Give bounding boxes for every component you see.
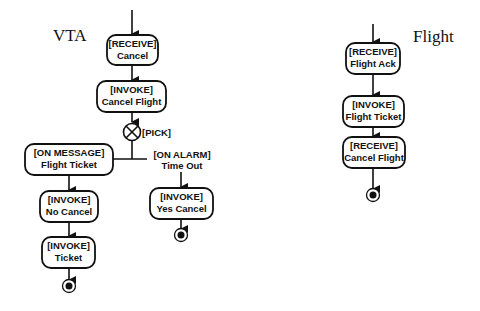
node-invoke-ticket: [INVOKE] Ticket [42,237,95,268]
pick-label: [PICK] [142,127,171,138]
node-kind: [INVOKE] [48,194,91,205]
vta-title: VTA [53,26,87,45]
node-invoke-flight-ticket: [INVOKE] Flight Ticket [343,96,404,127]
node-invoke-no-cancel: [INVOKE] No Cancel [40,191,98,222]
node-receive-cancel-flight: [RECEIVE] Cancel Flight [343,137,405,168]
node-name: Cancel Flight [102,96,162,107]
node-invoke-yes-cancel: [INVOKE] Yes Cancel [150,188,213,219]
end-node-icon [63,280,76,293]
node-receive-cancel: [RECEIVE] Cancel [107,35,158,65]
node-kind: [INVOKE] [160,191,203,202]
node-on-message: [ON MESSAGE] Flight Ticket [25,144,113,175]
node-on-alarm: [ON ALARM] Time Out [153,149,210,171]
node-name: Cancel Flight [344,152,404,163]
node-receive-flight-ack: [RECEIVE] Flight Ack [346,43,400,74]
node-invoke-cancel-flight: [INVOKE] Cancel Flight [97,81,166,112]
node-kind: [RECEIVE] [349,46,397,57]
node-kind: [RECEIVE] [350,140,398,151]
end-node-icon [367,189,380,202]
node-name: Yes Cancel [156,203,206,214]
end-node-icon [175,229,188,242]
node-name: Cancel [117,50,148,61]
node-kind: [ON ALARM] [153,149,210,160]
flight-title: Flight [413,27,454,46]
node-name: Flight Ticket [346,111,403,122]
pick-node: [PICK] [124,124,172,141]
node-kind: [INVOKE] [47,240,90,251]
node-name: Ticket [55,252,83,263]
node-name: Flight Ticket [41,159,98,170]
node-kind: [RECEIVE] [108,38,156,49]
node-name: Flight Ack [350,58,396,69]
node-kind: [ON MESSAGE] [34,147,105,158]
node-kind: [INVOKE] [110,84,153,95]
node-name: No Cancel [46,206,92,217]
diagram-canvas: VTA [RECEIVE] Cancel [INVOKE] Cancel Fli… [0,0,480,311]
node-kind: [INVOKE] [352,99,395,110]
node-name: Time Out [162,160,204,171]
